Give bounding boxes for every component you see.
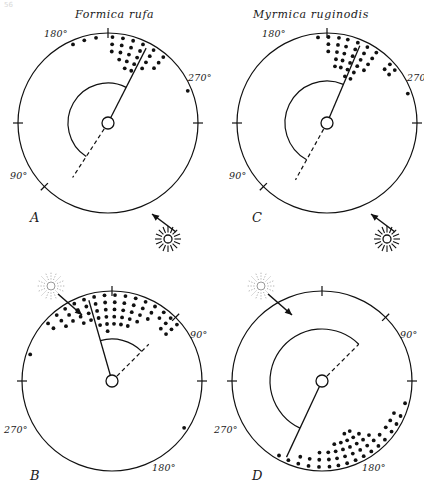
angle-arc <box>68 83 126 157</box>
data-point <box>125 60 129 64</box>
data-point <box>110 42 114 46</box>
data-point <box>104 308 108 312</box>
angle-arc <box>270 329 359 428</box>
mean-vector-line <box>108 48 146 123</box>
data-point <box>120 43 124 47</box>
data-point <box>362 52 366 56</box>
data-point <box>316 36 320 40</box>
data-point <box>129 46 133 50</box>
data-point <box>362 68 366 72</box>
data-point <box>97 316 101 320</box>
axis-label-90: 90° <box>400 329 417 340</box>
data-point <box>134 296 138 300</box>
data-point <box>94 302 98 306</box>
axis-label-90: 90° <box>10 170 27 181</box>
data-point <box>71 319 75 323</box>
reference-dashed-line <box>112 344 149 381</box>
sun-ray <box>392 244 397 249</box>
data-point <box>138 49 142 53</box>
data-point <box>72 302 76 306</box>
sun-icon <box>374 226 400 252</box>
data-point <box>348 429 352 433</box>
data-dots <box>71 35 190 92</box>
data-point <box>148 54 152 58</box>
sun-ray <box>173 244 178 249</box>
axis-label-270: 270° <box>187 72 212 83</box>
data-point <box>135 320 139 324</box>
data-point <box>318 451 322 455</box>
sun-ray <box>159 244 164 249</box>
data-point <box>82 298 86 302</box>
data-point <box>351 435 355 439</box>
data-point <box>387 73 391 77</box>
axis-label-180: 180° <box>152 462 176 473</box>
data-point <box>383 67 387 71</box>
data-point <box>92 295 96 299</box>
data-point <box>341 59 345 63</box>
centre-hub <box>321 117 333 129</box>
sun-ray <box>159 230 164 235</box>
data-point <box>296 462 300 466</box>
data-point <box>308 457 312 461</box>
sun-ray <box>263 292 266 299</box>
reference-dashed-line <box>322 344 359 381</box>
data-point <box>140 66 144 70</box>
data-point <box>361 438 365 442</box>
data-point <box>317 458 321 462</box>
data-point <box>384 425 388 429</box>
data-point <box>122 301 126 305</box>
data-point <box>334 449 338 453</box>
data-point <box>406 92 410 96</box>
data-point <box>342 432 346 436</box>
sun-ray <box>267 281 274 284</box>
species-title-right: Myrmica ruginodis <box>253 8 369 21</box>
data-point <box>326 450 330 454</box>
axis-label-180: 180° <box>362 462 386 473</box>
data-point <box>351 452 355 456</box>
data-point <box>113 300 117 304</box>
data-point <box>127 53 131 57</box>
data-point <box>341 448 345 452</box>
sun-disc <box>257 282 265 290</box>
data-point <box>307 464 311 468</box>
data-point <box>128 317 132 321</box>
data-point <box>52 326 56 330</box>
data-point <box>335 50 339 54</box>
data-point <box>119 323 123 327</box>
sun-ray <box>393 234 399 236</box>
data-point <box>67 313 71 317</box>
data-point <box>388 62 392 66</box>
data-point <box>337 464 341 468</box>
data-point <box>374 51 378 55</box>
data-point <box>392 411 396 415</box>
sun-ray <box>256 292 259 299</box>
sun-ray <box>41 276 46 281</box>
angle-arc <box>100 339 141 351</box>
data-point <box>94 36 98 40</box>
data-point <box>144 300 148 304</box>
data-point <box>362 454 366 458</box>
data-point <box>161 55 165 59</box>
data-point <box>383 438 387 442</box>
data-point <box>106 329 110 333</box>
data-point <box>162 310 166 314</box>
data-point <box>152 48 156 52</box>
data-point <box>175 323 179 327</box>
centre-hub <box>102 117 114 129</box>
data-point <box>332 442 336 446</box>
data-point <box>113 293 117 297</box>
data-point <box>82 321 86 325</box>
sun-disc <box>383 235 391 243</box>
data-point <box>59 319 63 323</box>
sun-ray <box>382 245 384 251</box>
data-point <box>365 45 369 49</box>
mean-vector-line <box>287 381 322 457</box>
data-point <box>337 36 341 40</box>
data-point <box>111 35 115 39</box>
data-point <box>343 454 347 458</box>
data-point <box>352 71 356 75</box>
data-point <box>135 56 139 60</box>
sun-ray <box>53 292 56 299</box>
data-point <box>104 315 108 319</box>
sun-ray <box>53 273 56 280</box>
